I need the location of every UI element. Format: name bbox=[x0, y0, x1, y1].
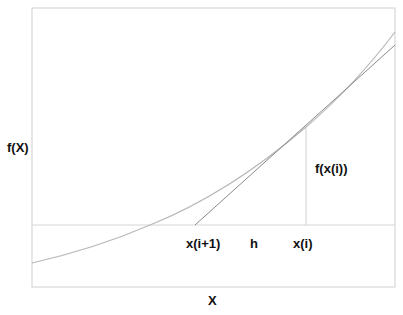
x-next-label: x(i+1) bbox=[186, 236, 220, 251]
f-value-label: f(x(i)) bbox=[315, 161, 348, 176]
x-axis-label: X bbox=[208, 293, 217, 308]
step-h-label: h bbox=[250, 236, 258, 251]
tangent-line bbox=[195, 45, 395, 225]
function-curve bbox=[32, 32, 395, 263]
newton-method-diagram: f(X) X x(i+1) h x(i) f(x(i)) bbox=[0, 0, 403, 315]
y-axis-label: f(X) bbox=[7, 140, 29, 155]
x-current-label: x(i) bbox=[293, 236, 313, 251]
